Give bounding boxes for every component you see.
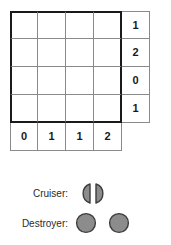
grid-row: 1 xyxy=(10,95,150,123)
legend-label-cruiser: Cruiser: xyxy=(0,188,75,199)
ship-legend: Cruiser: Destroyer: xyxy=(0,178,171,238)
grid-cell[interactable] xyxy=(94,11,122,39)
grid-row: 2 xyxy=(10,39,150,67)
grid-cell[interactable] xyxy=(10,95,38,123)
circle-icon xyxy=(75,212,97,234)
grid-cell[interactable] xyxy=(66,95,94,123)
grid-cell[interactable] xyxy=(66,11,94,39)
battleships-puzzle-grid: 1 2 0 1 0 1 1 2 xyxy=(10,11,150,151)
column-clue: 2 xyxy=(94,123,122,151)
grid-cell[interactable] xyxy=(10,39,38,67)
row-clue: 1 xyxy=(122,95,150,123)
column-clue: 1 xyxy=(38,123,66,151)
grid-cell[interactable] xyxy=(94,95,122,123)
row-clue: 0 xyxy=(122,67,150,95)
grid-cell[interactable] xyxy=(38,11,66,39)
legend-item-destroyer: Destroyer: xyxy=(0,208,171,238)
column-clue: 1 xyxy=(66,123,94,151)
column-clue: 0 xyxy=(10,123,38,151)
grid-cell[interactable] xyxy=(38,95,66,123)
grid-row: 0 xyxy=(10,67,150,95)
row-clue: 1 xyxy=(122,11,150,39)
grid-cell[interactable] xyxy=(38,67,66,95)
cruiser-shapes xyxy=(75,183,111,204)
grid-cell[interactable] xyxy=(10,11,38,39)
half-circle-left-icon xyxy=(75,183,92,204)
grid-cell[interactable] xyxy=(66,67,94,95)
column-clue-row: 0 1 1 2 xyxy=(10,123,150,151)
destroyer-shapes xyxy=(75,212,130,234)
grid-cell[interactable] xyxy=(38,39,66,67)
grid-cell[interactable] xyxy=(94,67,122,95)
grid-cell[interactable] xyxy=(66,39,94,67)
circle-icon xyxy=(108,212,130,234)
legend-label-destroyer: Destroyer: xyxy=(0,218,75,229)
grid-corner-spacer xyxy=(122,123,150,151)
legend-item-cruiser: Cruiser: xyxy=(0,178,171,208)
half-circle-right-icon xyxy=(94,183,111,204)
grid-row: 1 xyxy=(10,11,150,39)
row-clue: 2 xyxy=(122,39,150,67)
grid-cell[interactable] xyxy=(94,39,122,67)
grid-cell[interactable] xyxy=(10,67,38,95)
